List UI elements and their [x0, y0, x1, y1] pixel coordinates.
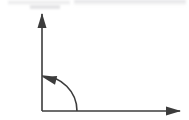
- rotation-arc-path: [42, 76, 77, 111]
- horizontal-axis-arrowhead-icon: [166, 107, 181, 116]
- figure-canvas: [0, 0, 189, 120]
- axes-group: [38, 13, 182, 116]
- rotation-arc-group: [42, 76, 77, 111]
- axes-diagram-svg: [0, 0, 189, 120]
- rotation-arc-arrowhead-icon: [43, 76, 58, 85]
- vertical-axis-arrowhead-icon: [38, 13, 47, 28]
